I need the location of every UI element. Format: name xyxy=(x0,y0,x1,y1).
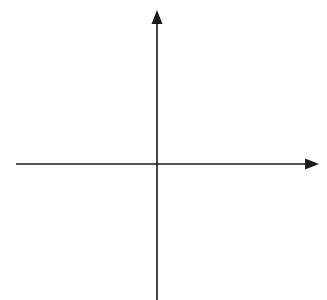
y-axis-arrow-icon xyxy=(152,10,163,24)
coordinate-plane xyxy=(0,0,327,300)
x-axis-arrow-icon xyxy=(305,159,319,170)
axes xyxy=(16,10,319,300)
